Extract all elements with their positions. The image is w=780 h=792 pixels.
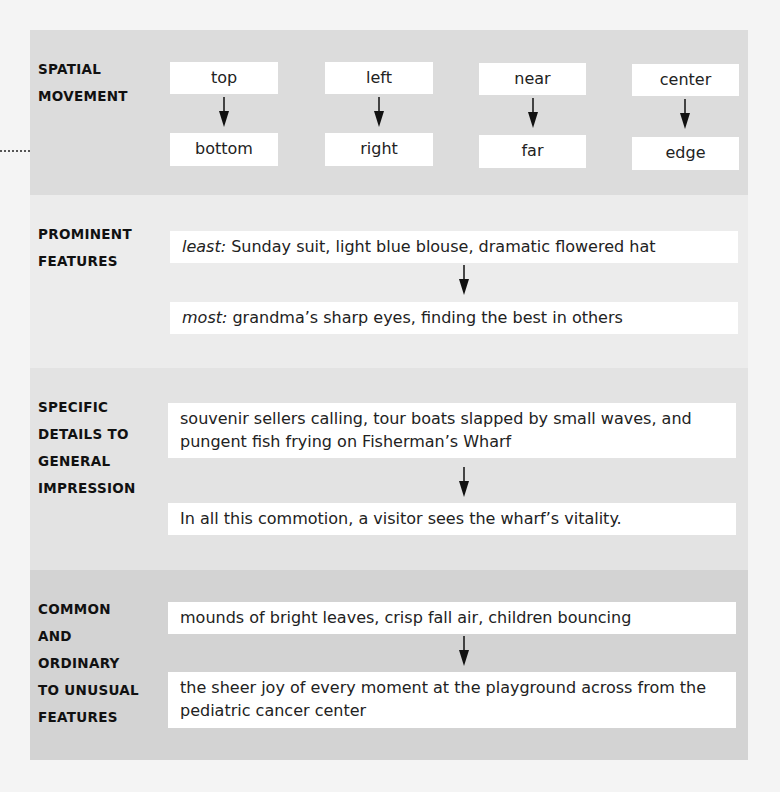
- from-box-common: mounds of bright leaves, crisp fall air,…: [168, 602, 736, 634]
- most-prefix: most:: [182, 308, 227, 327]
- to-box-most: most: grandma’s sharp eyes, finding the …: [170, 302, 738, 334]
- from-box-least: least: Sunday suit, light blue blouse, d…: [170, 231, 738, 263]
- down-arrow-icon: [458, 636, 470, 666]
- to-box-right: right: [325, 133, 433, 166]
- section-label: COMMON AND ORDINARY TO UNUSUAL FEATURES: [38, 596, 173, 731]
- from-box-near: near: [479, 63, 586, 95]
- down-arrow-icon: [218, 97, 230, 127]
- down-arrow-icon: [458, 265, 470, 295]
- section-common-to-unusual: COMMON AND ORDINARY TO UNUSUAL FEATURES …: [30, 570, 748, 760]
- from-box-center: center: [632, 64, 739, 96]
- section-spatial-movement: SPATIAL MOVEMENT top bottom left right n…: [30, 30, 748, 195]
- to-box-edge: edge: [632, 137, 739, 170]
- down-arrow-icon: [458, 467, 470, 497]
- to-box-bottom: bottom: [170, 133, 278, 166]
- section-label: SPECIFIC DETAILS TO GENERAL IMPRESSION: [38, 394, 173, 502]
- to-box-unusual: the sheer joy of every moment at the pla…: [168, 672, 736, 728]
- to-box-impression: In all this commotion, a visitor sees th…: [168, 503, 736, 535]
- section-specific-to-general: SPECIFIC DETAILS TO GENERAL IMPRESSION s…: [30, 368, 748, 570]
- from-box-left: left: [325, 62, 433, 94]
- down-arrow-icon: [373, 97, 385, 127]
- section-label: PROMINENT FEATURES: [38, 221, 173, 275]
- least-text: Sunday suit, light blue blouse, dramatic…: [226, 237, 655, 256]
- down-arrow-icon: [679, 99, 691, 129]
- from-box-details: souvenir sellers calling, tour boats sla…: [168, 403, 736, 458]
- least-prefix: least:: [182, 237, 226, 256]
- down-arrow-icon: [527, 98, 539, 128]
- section-label: SPATIAL MOVEMENT: [38, 56, 173, 110]
- most-text: grandma’s sharp eyes, finding the best i…: [227, 308, 622, 327]
- to-box-far: far: [479, 135, 586, 168]
- section-prominent-features: PROMINENT FEATURES least: Sunday suit, l…: [30, 195, 748, 368]
- from-box-top: top: [170, 62, 278, 94]
